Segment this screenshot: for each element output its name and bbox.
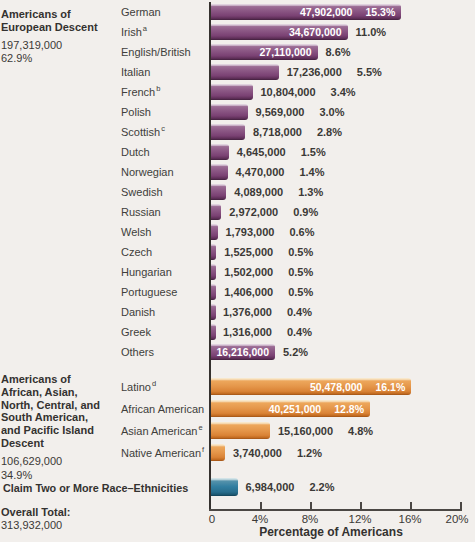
pct-label: 16.1%: [375, 381, 405, 393]
value-label: 10,804,000: [261, 86, 316, 98]
pct-label: 5.5%: [357, 66, 382, 78]
category-label: Swedish: [121, 184, 163, 200]
category-label: German: [121, 4, 161, 20]
chart-row-welsh: Welsh1,793,0000.6%: [0, 224, 475, 240]
chart-row-scottish: Scottishc8,718,0002.8%: [0, 124, 475, 140]
x-tick-label: 12%: [348, 513, 371, 525]
chart-row-polish: Polish9,569,0003.0%: [0, 104, 475, 120]
value-label: 34,670,000: [289, 26, 342, 38]
chart-row-russian: Russian2,972,0000.9%: [0, 204, 475, 220]
outside-labels: 3,740,0001.2%: [233, 444, 322, 461]
value-label: 2,972,000: [229, 206, 278, 218]
value-label: 6,984,000: [246, 481, 295, 493]
x-tick-label: 20%: [445, 513, 468, 525]
x-tick-label: 0: [209, 513, 215, 525]
category-label: Scottishc: [121, 124, 165, 140]
bar-russian: [210, 204, 221, 220]
value-label: 1,316,000: [223, 326, 272, 338]
outside-labels: 10,804,0003.4%: [261, 84, 356, 100]
x-tick-mark: [460, 502, 462, 509]
outside-labels: 1,502,0000.5%: [224, 264, 313, 280]
bar-african-american: 40,251,00012.8%: [210, 400, 370, 417]
pct-label: 1.2%: [297, 447, 322, 459]
bar-latino: 50,478,00016.1%: [210, 378, 411, 395]
bar-scottish: [210, 124, 245, 140]
outside-labels: 4,089,0001.3%: [234, 184, 323, 200]
bar-others: 16,216,000: [210, 344, 275, 360]
category-label: Czech: [121, 244, 152, 260]
pct-label: 8.6%: [326, 46, 351, 58]
bar-dutch: [210, 144, 229, 160]
value-label: 4,089,000: [234, 186, 283, 198]
chart-row-others: Others16,216,0005.2%: [0, 344, 475, 360]
value-label: 1,793,000: [226, 226, 275, 238]
ethnicity-bar-chart: Americans of European Descent 197,319,00…: [0, 0, 475, 542]
chart-row-danish: Danish1,376,0000.4%: [0, 304, 475, 320]
overall-total-value: 313,932,000: [1, 519, 70, 532]
chart-row-latino: Latinod50,478,00016.1%: [0, 378, 475, 395]
pct-label: 0.4%: [287, 306, 312, 318]
y-baseline: [209, 2, 211, 511]
category-label: African American: [121, 400, 204, 417]
value-label: 9,569,000: [256, 106, 305, 118]
x-axis-line: [209, 509, 462, 511]
chart-row-hungarian: Hungarian1,502,0000.5%: [0, 264, 475, 280]
chart-row-asian-american: Asian Americane15,160,0004.8%: [0, 422, 475, 439]
bar-german: 47,902,00015.3%: [210, 4, 401, 20]
x-tick-label: 4%: [252, 513, 269, 525]
category-label: Russian: [121, 204, 161, 220]
value-label: 50,478,000: [310, 381, 363, 393]
value-label: 15,160,000: [278, 425, 333, 437]
value-label: 16,216,000: [216, 346, 269, 358]
outside-labels: 9,569,0003.0%: [256, 104, 345, 120]
category-label: English/British: [121, 44, 191, 60]
outside-labels: 2,972,0000.9%: [229, 204, 318, 220]
pct-label: 1.5%: [301, 146, 326, 158]
chart-row-english-british: English/British27,110,0008.6%: [0, 44, 475, 60]
outside-labels: 1,376,0000.4%: [223, 304, 312, 320]
pct-label: 2.8%: [317, 126, 342, 138]
chart-row-portuguese: Portuguese1,406,0000.5%: [0, 284, 475, 300]
bar-asian-american: [210, 422, 270, 439]
pct-label: 3.0%: [319, 106, 344, 118]
value-label: 40,251,000: [269, 403, 322, 415]
category-label: Welsh: [121, 224, 151, 240]
category-label: Danish: [121, 304, 155, 320]
chart-row-french: Frenchb10,804,0003.4%: [0, 84, 475, 100]
outside-labels: 4,645,0001.5%: [237, 144, 326, 160]
value-label: 4,645,000: [237, 146, 286, 158]
x-tick-label: 16%: [398, 513, 421, 525]
pct-label: 0.5%: [288, 246, 313, 258]
value-label: 1,376,000: [223, 306, 272, 318]
chart-row-irish: Irisha34,670,00011.0%: [0, 24, 475, 40]
chart-row-dutch: Dutch4,645,0001.5%: [0, 144, 475, 160]
pct-label: 3.4%: [331, 86, 356, 98]
value-label: 1,502,000: [224, 266, 273, 278]
x-tick-mark: [360, 502, 362, 509]
category-label: Greek: [121, 324, 151, 340]
overall-total-annotation: Overall Total: 313,932,000: [1, 506, 70, 532]
x-tick-mark: [410, 502, 412, 509]
outside-labels: 5.2%: [283, 344, 308, 360]
outside-labels: 1,525,0000.5%: [224, 244, 313, 260]
x-tick-mark: [310, 502, 312, 509]
category-label: Italian: [121, 64, 150, 80]
bar-swedish: [210, 184, 226, 200]
category-label: Irisha: [121, 24, 147, 40]
value-label: 4,470,000: [236, 166, 285, 178]
bar-french: [210, 84, 253, 100]
value-label: 27,110,000: [260, 46, 312, 58]
pct-label: 0.5%: [288, 286, 313, 298]
bar-welsh: [210, 224, 218, 240]
category-label: Native Americanf: [121, 444, 204, 461]
outside-labels: 1,316,0000.4%: [223, 324, 312, 340]
category-label: Dutch: [121, 144, 150, 160]
outside-labels: 1,793,0000.6%: [226, 224, 315, 240]
chart-row-african-american: African American40,251,00012.8%: [0, 400, 475, 417]
value-label: 3,740,000: [233, 447, 282, 459]
value-label: 1,406,000: [224, 286, 273, 298]
bar-english-british: 27,110,000: [210, 44, 318, 60]
outside-labels: 17,236,0005.5%: [287, 64, 382, 80]
chart-row-greek: Greek1,316,0000.4%: [0, 324, 475, 340]
chart-row-norwegian: Norwegian4,470,0001.4%: [0, 164, 475, 180]
